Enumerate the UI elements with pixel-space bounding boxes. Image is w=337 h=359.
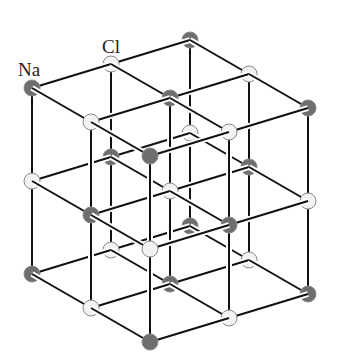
cl-atom — [142, 241, 158, 257]
lattice-bond — [170, 74, 249, 98]
lattice-bond — [111, 40, 190, 64]
lattice-bond — [229, 201, 308, 225]
lattice-bond — [32, 157, 111, 181]
lattice-bond — [91, 122, 150, 156]
lattice-bond — [170, 98, 229, 132]
lattice-bond — [91, 284, 170, 308]
lattice-bond — [170, 284, 229, 318]
lattice-bond — [91, 98, 170, 122]
lattice-bond — [91, 191, 170, 215]
lattice-bond — [170, 167, 249, 191]
lattice-bond — [32, 250, 111, 274]
lattice-bond — [249, 260, 308, 294]
na-label: Na — [18, 60, 40, 79]
lattice-bond — [190, 40, 249, 74]
lattice-bond — [32, 181, 91, 215]
lattice-svg — [0, 0, 337, 359]
lattice-bond — [32, 274, 91, 308]
lattice-bond — [32, 64, 111, 88]
lattice-bond — [150, 318, 229, 342]
lattice-bond — [249, 74, 308, 108]
na-atom — [142, 148, 158, 164]
lattice-bond — [229, 294, 308, 318]
lattice-bond — [32, 88, 91, 122]
lattice-bond — [249, 167, 308, 201]
lattice-bond — [170, 191, 229, 225]
lattice-bond — [170, 260, 249, 284]
na-atom — [142, 334, 158, 350]
lattice-bond — [111, 157, 170, 191]
lattice-bond — [91, 215, 150, 249]
lattice-bond — [111, 250, 170, 284]
cl-label: Cl — [102, 37, 120, 56]
lattice-bond — [111, 64, 170, 98]
lattice-bond — [229, 108, 308, 132]
nacl-lattice-diagram: Na Cl — [0, 0, 337, 359]
lattice-bond — [91, 308, 150, 342]
